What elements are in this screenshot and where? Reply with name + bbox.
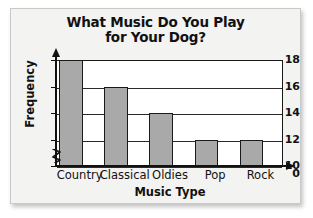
y-axis-break-icon	[51, 149, 63, 163]
y-tick-mark	[51, 87, 56, 88]
bar	[195, 140, 219, 167]
bar	[240, 140, 264, 167]
y-axis-label: Frequency	[23, 48, 37, 140]
y-tick-mark	[51, 166, 56, 167]
y-tick-mark	[51, 60, 56, 61]
y-axis-arrow-icon	[52, 48, 60, 57]
x-tick-label: Rock	[230, 168, 291, 182]
chart-title-line-2: for Your Dog?	[11, 30, 300, 45]
bar	[149, 113, 173, 166]
gridline	[57, 88, 282, 89]
y-tick-label: 18	[266, 53, 300, 66]
x-axis-label: Music Type	[57, 185, 283, 199]
y-tick-label: 12	[266, 133, 300, 146]
chart-figure: What Music Do You Play for Your Dog? Fre…	[10, 8, 301, 204]
y-tick-mark	[51, 140, 56, 141]
y-tick-label: 16	[266, 80, 300, 93]
plot-area	[57, 60, 283, 166]
bar	[104, 87, 128, 167]
x-axis-line	[56, 165, 288, 167]
y-tick-label: 14	[266, 106, 300, 119]
chart-title-line-1: What Music Do You Play	[66, 14, 244, 30]
chart-title: What Music Do You Play for Your Dog?	[11, 15, 300, 44]
y-tick-mark	[51, 113, 56, 114]
